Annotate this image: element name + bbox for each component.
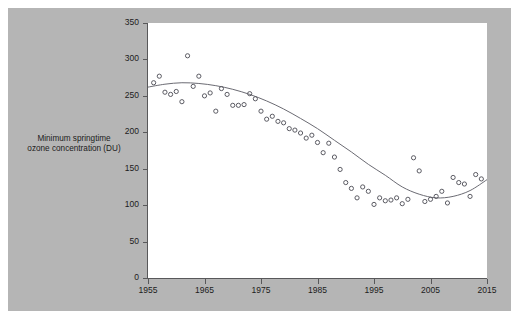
data-point-marker (214, 109, 218, 113)
x-axis-line (147, 278, 487, 279)
data-point-marker (327, 141, 331, 145)
data-point-marker (152, 81, 156, 85)
data-point-marker (479, 177, 483, 181)
x-tick-label: 1985 (298, 286, 338, 295)
data-point-marker (366, 189, 370, 193)
data-point-marker (462, 182, 466, 186)
data-point-marker (428, 197, 432, 201)
data-point-marker (383, 199, 387, 203)
x-tick-mark (431, 279, 432, 284)
data-point-marker (259, 109, 263, 113)
data-point-marker (451, 175, 455, 179)
x-tick-label: 1965 (185, 286, 225, 295)
data-point-marker (191, 84, 195, 88)
data-point-marker (457, 180, 461, 184)
data-point-marker (338, 167, 342, 171)
data-point-marker (197, 74, 201, 78)
y-tick-label: 0 (109, 273, 139, 282)
x-tick-mark (374, 279, 375, 284)
data-point-marker (282, 121, 286, 125)
y-tick-label: 250 (109, 91, 139, 100)
data-point-marker (242, 103, 246, 107)
data-point-marker (298, 131, 302, 135)
data-point-marker (372, 202, 376, 206)
x-tick-mark (148, 279, 149, 284)
data-point-marker (304, 136, 308, 140)
x-tick-mark (205, 279, 206, 284)
x-tick-mark (318, 279, 319, 284)
data-point-marker (332, 155, 336, 159)
data-point-marker (411, 156, 415, 160)
data-point-markers (152, 54, 484, 207)
data-point-marker (208, 91, 212, 95)
data-point-marker (468, 194, 472, 198)
x-tick-label: 1955 (128, 286, 168, 295)
data-point-marker (344, 180, 348, 184)
data-point-marker (174, 89, 178, 93)
x-tick-label: 2015 (467, 286, 507, 295)
data-point-marker (417, 169, 421, 173)
x-tick-mark (261, 279, 262, 284)
data-point-marker (395, 196, 399, 200)
data-point-marker (236, 103, 240, 107)
data-point-marker (349, 186, 353, 190)
chart-canvas (148, 23, 487, 278)
data-point-marker (270, 114, 274, 118)
data-point-marker (400, 202, 404, 206)
data-point-marker (163, 90, 167, 94)
data-point-marker (315, 140, 319, 144)
data-point-marker (169, 92, 173, 96)
data-point-marker (440, 189, 444, 193)
data-point-marker (287, 127, 291, 131)
data-point-marker (378, 196, 382, 200)
data-point-marker (389, 198, 393, 202)
data-point-marker (406, 197, 410, 201)
data-point-marker (423, 199, 427, 203)
y-axis-label-line2: ozone concentration (DU) (14, 144, 134, 154)
y-tick-label: 100 (109, 200, 139, 209)
data-point-marker (157, 74, 161, 78)
x-tick-label: 2005 (411, 286, 451, 295)
data-point-marker (180, 100, 184, 104)
data-point-marker (185, 54, 189, 58)
data-point-marker (474, 172, 478, 176)
data-point-marker (225, 92, 229, 96)
data-point-marker (265, 117, 269, 121)
data-point-marker (321, 151, 325, 155)
y-tick-label: 150 (109, 164, 139, 173)
data-point-marker (310, 133, 314, 137)
y-tick-label: 50 (109, 237, 139, 246)
y-tick-label: 200 (109, 127, 139, 136)
y-tick-label: 350 (109, 18, 139, 27)
data-point-marker (361, 185, 365, 189)
data-point-marker (355, 196, 359, 200)
data-point-marker (253, 97, 257, 101)
ozone-trend-figure: Minimum springtime ozone concentration (… (0, 0, 519, 319)
data-point-marker (445, 201, 449, 205)
x-tick-label: 1995 (354, 286, 394, 295)
x-tick-mark (487, 279, 488, 284)
data-point-marker (202, 94, 206, 98)
data-point-marker (293, 128, 297, 132)
y-axis-label: Minimum springtime ozone concentration (… (14, 134, 134, 154)
data-point-marker (231, 103, 235, 107)
data-point-marker (276, 119, 280, 123)
y-tick-label: 300 (109, 54, 139, 63)
x-tick-label: 1975 (241, 286, 281, 295)
